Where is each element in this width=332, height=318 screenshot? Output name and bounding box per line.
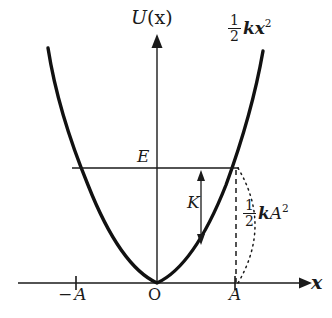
y-axis xyxy=(152,34,163,283)
negative-sign: − xyxy=(58,284,72,304)
potential-energy-diagram: U(x) x 1 2 kx2 1 2 kA2 E K O −A A xyxy=(0,0,332,318)
negative-amplitude-letter: A xyxy=(74,284,86,304)
curve-exponent: 2 xyxy=(265,17,272,29)
y-axis-label-base: U xyxy=(131,6,147,28)
tick-label-positive-amplitude: A xyxy=(229,286,241,303)
tick-label-negative-amplitude: −A xyxy=(58,286,87,303)
brace-fraction-one-half: 1 2 xyxy=(243,198,256,228)
curve-fraction-one-half: 1 2 xyxy=(228,13,241,43)
curve-spring-constant: k xyxy=(243,18,255,38)
brace-fraction-denominator: 2 xyxy=(243,213,256,229)
y-axis-arrowhead xyxy=(152,34,163,48)
x-axis-label: x xyxy=(311,273,322,292)
diagram-canvas xyxy=(0,0,332,318)
curve-fraction-numerator: 1 xyxy=(228,13,241,28)
y-axis-label: U(x) xyxy=(131,8,173,27)
kinetic-energy-arrow-head-up xyxy=(197,170,205,181)
curve-variable: x xyxy=(255,18,265,38)
parabola-curve xyxy=(48,48,263,283)
y-axis-label-argument: (x) xyxy=(147,6,173,28)
kinetic-energy-label: K xyxy=(187,194,200,211)
total-energy-brace-label: 1 2 kA2 xyxy=(243,199,289,229)
brace-fraction-numerator: 1 xyxy=(243,198,256,213)
origin-label: O xyxy=(148,287,161,303)
total-energy-label: E xyxy=(137,148,149,165)
brace-amplitude: A xyxy=(270,203,282,223)
curve-equation-label: 1 2 kx2 xyxy=(228,14,272,44)
curve-fraction-denominator: 2 xyxy=(228,28,241,44)
brace-spring-constant: k xyxy=(258,203,270,223)
brace-exponent: 2 xyxy=(282,202,289,214)
